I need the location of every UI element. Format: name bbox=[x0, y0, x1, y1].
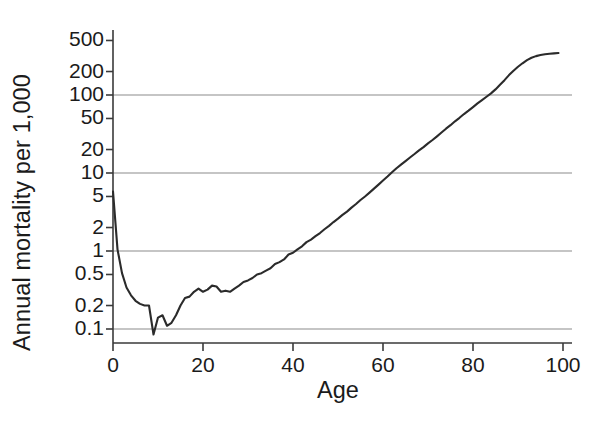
y-tick-label: 2 bbox=[34, 215, 104, 239]
y-tick-label: 500 bbox=[34, 27, 104, 51]
y-tick-label: 5 bbox=[34, 183, 104, 207]
y-tick-label: 1 bbox=[34, 238, 104, 262]
y-tick-label: 0.5 bbox=[34, 261, 104, 285]
x-tick-label: 20 bbox=[173, 353, 233, 377]
y-tick-label: 100 bbox=[34, 82, 104, 106]
y-tick-label: 10 bbox=[34, 160, 104, 184]
y-tick-label: 0.1 bbox=[34, 316, 104, 340]
y-tick-label: 200 bbox=[34, 59, 104, 83]
y-tick-label: 0.2 bbox=[34, 293, 104, 317]
mortality-by-age-chart: Annual mortality per 1,000 0.10.20.51251… bbox=[0, 0, 608, 425]
y-tick-label: 50 bbox=[34, 105, 104, 129]
x-tick-label: 80 bbox=[443, 353, 503, 377]
x-tick-label: 60 bbox=[353, 353, 413, 377]
x-tick-label: 40 bbox=[263, 353, 323, 377]
gridlines bbox=[113, 95, 572, 329]
x-tick-label: 0 bbox=[83, 353, 143, 377]
y-tick-label: 20 bbox=[34, 137, 104, 161]
axis-ticks bbox=[106, 40, 563, 351]
x-tick-label: 100 bbox=[533, 353, 593, 377]
x-axis-title: Age bbox=[113, 377, 563, 404]
